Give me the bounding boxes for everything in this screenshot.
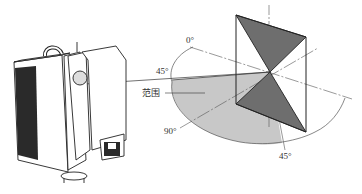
scanner-diagram: 0° 45° 范围 90° 45° xyxy=(0,0,362,194)
label-range: 范围 xyxy=(142,89,160,98)
diagram-canvas xyxy=(0,0,362,194)
label-45-deg-upper: 45° xyxy=(156,67,169,76)
label-0-deg: 0° xyxy=(186,36,194,45)
label-45-deg-lower: 45° xyxy=(279,152,292,161)
label-90-deg: 90° xyxy=(164,127,177,136)
laser-scanner xyxy=(14,42,126,183)
